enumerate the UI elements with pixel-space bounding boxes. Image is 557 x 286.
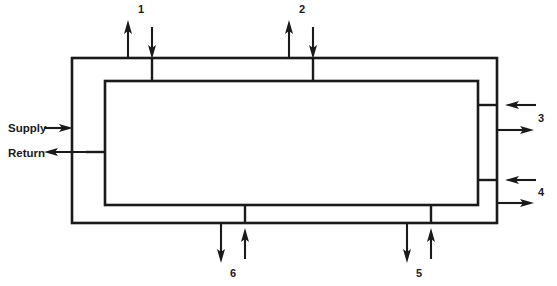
port-4-group: 4	[478, 176, 545, 207]
inner-return-loop-rect	[105, 81, 478, 205]
port-1-label: 1	[138, 3, 144, 15]
port-2-group: 2	[285, 3, 317, 81]
port-4-label: 4	[538, 186, 545, 198]
schematic-diagram: 1 2 3 4	[0, 0, 557, 286]
port-6-group: 6	[217, 205, 249, 279]
port-3-label: 3	[538, 112, 544, 124]
port-5-group: 5	[403, 205, 435, 279]
supply-arrow-group	[44, 124, 73, 132]
port-1-group: 1	[124, 3, 156, 81]
supply-label: Supply	[8, 122, 47, 134]
port-2-label: 2	[299, 3, 305, 15]
return-label: Return	[8, 147, 45, 159]
return-arrow-group	[44, 148, 105, 156]
port-6-label: 6	[230, 267, 236, 279]
port-3-group: 3	[478, 101, 544, 134]
outer-supply-loop-rect	[72, 58, 497, 223]
port-5-label: 5	[416, 267, 422, 279]
diagram-canvas: 1 2 3 4	[0, 0, 557, 286]
